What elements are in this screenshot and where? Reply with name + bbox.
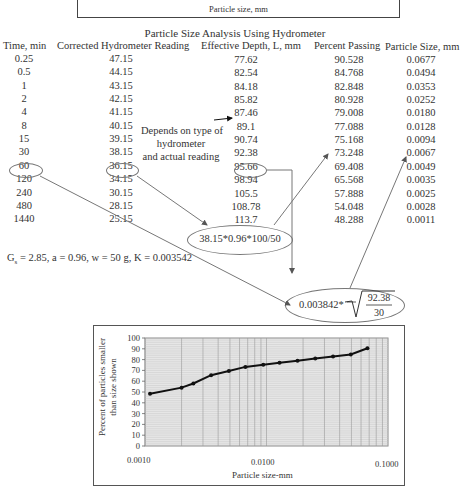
y-tick-label: 80 xyxy=(132,355,141,365)
y-tick-label: 30 xyxy=(132,409,141,419)
x-axis-label: Particle size-mm xyxy=(232,470,293,480)
data-point-marker xyxy=(349,352,353,356)
grain-size-chart: 0102030405060708090100 xyxy=(0,0,470,491)
y-tick-label: 70 xyxy=(132,365,141,375)
data-point-marker xyxy=(296,359,300,363)
data-point-marker xyxy=(261,363,265,367)
data-point-marker xyxy=(278,361,282,365)
y-tick-label: 20 xyxy=(132,419,141,429)
y-tick-label: 60 xyxy=(132,376,141,386)
y-tick-label: 90 xyxy=(132,344,141,354)
data-point-marker xyxy=(191,381,195,385)
y-tick-label: 10 xyxy=(132,430,141,440)
data-point-marker xyxy=(331,355,335,359)
y-tick-label: 0 xyxy=(136,441,140,451)
data-point-marker xyxy=(227,369,231,373)
x-tick-0-1: 0.1000 xyxy=(375,459,398,469)
y-axis-label: Percent of particles smaller than size s… xyxy=(97,332,119,442)
y-tick-label: 100 xyxy=(127,333,140,343)
data-point-marker xyxy=(209,373,213,377)
y-axis-label-line-2: than size shown xyxy=(108,332,119,442)
data-point-marker xyxy=(180,386,184,390)
y-tick-label: 40 xyxy=(132,398,141,408)
data-point-marker xyxy=(243,365,247,369)
y-axis-label-line-1: Percent of particles smaller xyxy=(97,332,108,442)
data-point-marker xyxy=(365,346,369,350)
data-point-marker xyxy=(148,392,152,396)
x-tick-0-01: 0.0100 xyxy=(251,457,274,467)
y-tick-label: 50 xyxy=(132,387,141,397)
x-tick-0-001: 0.0010 xyxy=(127,455,150,465)
data-point-marker xyxy=(313,357,317,361)
